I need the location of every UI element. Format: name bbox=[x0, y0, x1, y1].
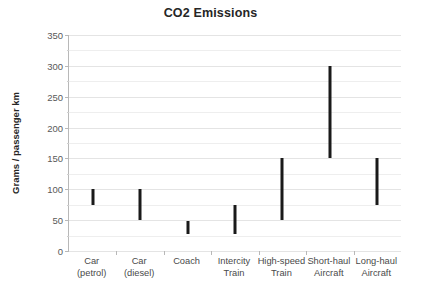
x-axis-category-label: Car(petrol) bbox=[77, 256, 106, 279]
y-axis-tick bbox=[65, 251, 69, 252]
range-bar bbox=[328, 66, 331, 159]
y-axis-tick bbox=[67, 50, 69, 51]
gridline-major bbox=[69, 35, 401, 36]
x-axis-category-label-line: (petrol) bbox=[77, 268, 106, 280]
plot-area: 050100150200250300350 bbox=[68, 35, 401, 252]
x-axis-tick bbox=[259, 251, 260, 255]
x-axis-tick bbox=[306, 251, 307, 255]
x-axis-category-label-line: Car bbox=[77, 256, 106, 268]
y-axis-tick bbox=[67, 236, 69, 237]
range-bar bbox=[281, 158, 284, 220]
x-axis-category-label-line: Train bbox=[218, 268, 251, 280]
y-axis-tick bbox=[67, 112, 69, 113]
x-axis-category-label: Long-haulAircraft bbox=[356, 256, 397, 279]
gridline-major bbox=[69, 189, 401, 190]
chart-container: CO2 Emissions Grams / passenger km 05010… bbox=[0, 0, 421, 300]
x-axis-category-label-line: Coach bbox=[173, 256, 200, 268]
x-axis-tick bbox=[211, 251, 212, 255]
y-axis-title: Grams / passenger km bbox=[4, 35, 26, 251]
x-axis-tick bbox=[164, 251, 165, 255]
y-axis-title-text: Grams / passenger km bbox=[10, 92, 21, 194]
gridline-minor bbox=[69, 81, 401, 82]
y-axis-tick-label: 150 bbox=[47, 153, 63, 164]
y-axis-tick bbox=[67, 81, 69, 82]
x-axis-category-label: High-speedTrain bbox=[258, 256, 306, 279]
chart-title: CO2 Emissions bbox=[0, 6, 421, 20]
x-axis-category-label: Coach bbox=[173, 256, 200, 268]
gridline-minor bbox=[69, 143, 401, 144]
y-axis-tick-label: 0 bbox=[58, 246, 63, 257]
gridline-major bbox=[69, 66, 401, 67]
gridline-minor bbox=[69, 112, 401, 113]
x-axis-category-label: Short-haulAircraft bbox=[307, 256, 350, 279]
y-axis-tick-label: 300 bbox=[47, 60, 63, 71]
gridline-minor bbox=[69, 236, 401, 237]
gridline-major bbox=[69, 97, 401, 98]
x-axis-category-label-line: Long-haul bbox=[356, 256, 397, 268]
y-axis-tick-label: 100 bbox=[47, 184, 63, 195]
range-bar bbox=[376, 158, 379, 204]
x-axis-category-label-line: Aircraft bbox=[356, 268, 397, 280]
gridline-major bbox=[69, 128, 401, 129]
range-bar bbox=[139, 189, 142, 220]
gridline-minor bbox=[69, 174, 401, 175]
y-axis-tick bbox=[65, 189, 69, 190]
range-bar bbox=[186, 221, 189, 234]
x-axis-category-label-line: Aircraft bbox=[307, 268, 350, 280]
y-axis-tick bbox=[67, 174, 69, 175]
x-axis-category-label-line: Car bbox=[124, 256, 154, 268]
x-axis-category-label: IntercityTrain bbox=[218, 256, 251, 279]
y-axis-tick-label: 50 bbox=[52, 215, 63, 226]
x-axis-category-label-line: High-speed bbox=[258, 256, 306, 268]
y-axis-tick bbox=[65, 158, 69, 159]
x-axis-category-label: Car(diesel) bbox=[124, 256, 154, 279]
y-axis-tick-label: 350 bbox=[47, 30, 63, 41]
x-axis-tick bbox=[354, 251, 355, 255]
y-axis-tick bbox=[65, 128, 69, 129]
gridline-major bbox=[69, 158, 401, 159]
x-axis-category-label-line: Train bbox=[258, 268, 306, 280]
range-bar bbox=[234, 205, 237, 235]
gridline-major bbox=[69, 251, 401, 252]
y-axis-tick bbox=[65, 220, 69, 221]
y-axis-tick bbox=[65, 97, 69, 98]
x-axis-category-label-line: Short-haul bbox=[307, 256, 350, 268]
y-axis-tick bbox=[65, 35, 69, 36]
x-axis-category-label-line: Intercity bbox=[218, 256, 251, 268]
x-axis-tick bbox=[116, 251, 117, 255]
x-axis-category-label-line: (diesel) bbox=[124, 268, 154, 280]
gridline-minor bbox=[69, 50, 401, 51]
y-axis-tick-label: 250 bbox=[47, 91, 63, 102]
y-axis-tick bbox=[65, 66, 69, 67]
y-axis-tick bbox=[67, 205, 69, 206]
range-bar bbox=[91, 189, 94, 204]
y-axis-tick-label: 200 bbox=[47, 122, 63, 133]
y-axis-tick bbox=[67, 143, 69, 144]
